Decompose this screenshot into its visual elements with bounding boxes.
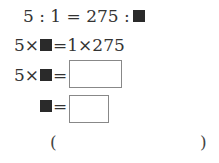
equation-3-equals: = bbox=[53, 65, 67, 85]
unknown-square-icon bbox=[40, 69, 52, 81]
equation-1: 5 : 1 = 275 : bbox=[23, 6, 146, 26]
answer-box-2[interactable] bbox=[69, 95, 109, 123]
answer-box-1[interactable] bbox=[69, 60, 122, 88]
unknown-square-icon bbox=[40, 100, 52, 112]
unknown-square-icon bbox=[133, 10, 145, 22]
equation-4: = bbox=[39, 96, 67, 116]
equation-3: 5× = bbox=[14, 65, 67, 85]
answer-blank[interactable] bbox=[62, 134, 200, 154]
equation-2: 5× =1×275 bbox=[14, 35, 125, 55]
unknown-square-icon bbox=[40, 39, 52, 51]
equation-2-rest: =1×275 bbox=[53, 35, 125, 55]
answer-close-paren: ) bbox=[200, 132, 207, 152]
equation-4-equals: = bbox=[53, 96, 67, 116]
answer-open-paren: ( bbox=[50, 132, 57, 152]
equation-2-prefix: 5× bbox=[14, 35, 39, 55]
equation-3-prefix: 5× bbox=[14, 65, 39, 85]
equation-1-text: 5 : 1 = 275 : bbox=[23, 6, 130, 26]
